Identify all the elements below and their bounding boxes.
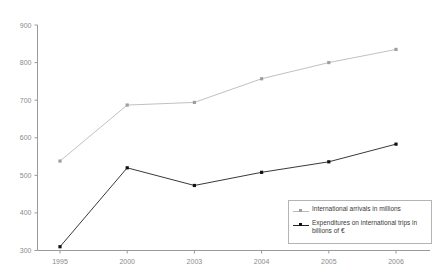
x-tick-label: 2003 — [187, 258, 203, 265]
x-axis-ticks: 199520002003200420052006 — [52, 251, 404, 265]
legend-key-arrivals-icon — [293, 207, 309, 216]
data-point-marker — [327, 61, 330, 64]
data-point-marker — [394, 143, 397, 146]
data-point-marker — [260, 171, 263, 174]
chart-legend: International arrivals in millions Expen… — [288, 200, 432, 244]
data-point-marker — [260, 77, 263, 80]
y-tick-label: 900 — [20, 22, 32, 29]
legend-label-expenditures: Expenditures on international trips in b… — [312, 219, 420, 235]
data-point-marker — [58, 245, 61, 248]
y-tick-label: 800 — [20, 59, 32, 66]
y-tick-label: 300 — [20, 247, 32, 254]
legend-marker-expenditures-icon — [299, 223, 302, 226]
x-tick-label: 2000 — [119, 258, 135, 265]
data-point-marker — [327, 160, 330, 163]
legend-label-arrivals: International arrivals in millions — [312, 205, 401, 213]
x-tick-label: 2005 — [321, 258, 337, 265]
data-point-marker — [193, 184, 196, 187]
y-tick-label: 500 — [20, 172, 32, 179]
data-point-marker — [126, 166, 129, 169]
y-tick-label: 400 — [20, 209, 32, 216]
data-point-marker — [193, 101, 196, 104]
data-point-marker — [58, 159, 61, 162]
y-tick-label: 600 — [20, 134, 32, 141]
y-axis-ticks: 300400500600700800900 — [20, 22, 38, 255]
x-tick-label: 1995 — [52, 258, 68, 265]
x-tick-label: 2004 — [254, 258, 270, 265]
legend-key-expenditures-icon — [293, 221, 309, 230]
x-tick-label: 2006 — [388, 258, 404, 265]
line-chart: 300400500600700800900 199520002003200420… — [0, 0, 438, 280]
legend-marker-arrivals-icon — [299, 209, 302, 212]
data-point-marker — [394, 48, 397, 51]
data-point-marker — [126, 103, 129, 106]
legend-item-arrivals: International arrivals in millions — [293, 205, 426, 216]
series-line-arrivals — [60, 49, 396, 161]
legend-item-expenditures: Expenditures on international trips in b… — [293, 219, 426, 235]
y-tick-label: 700 — [20, 97, 32, 104]
